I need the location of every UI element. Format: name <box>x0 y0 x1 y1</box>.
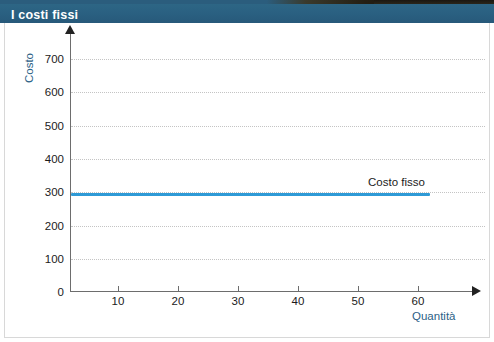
chart-panel <box>4 23 490 338</box>
chart-page: I costi fissi 700 600 500 400 300 <box>0 0 494 342</box>
title-bar: I costi fissi <box>0 4 494 23</box>
page-title: I costi fissi <box>11 8 78 22</box>
